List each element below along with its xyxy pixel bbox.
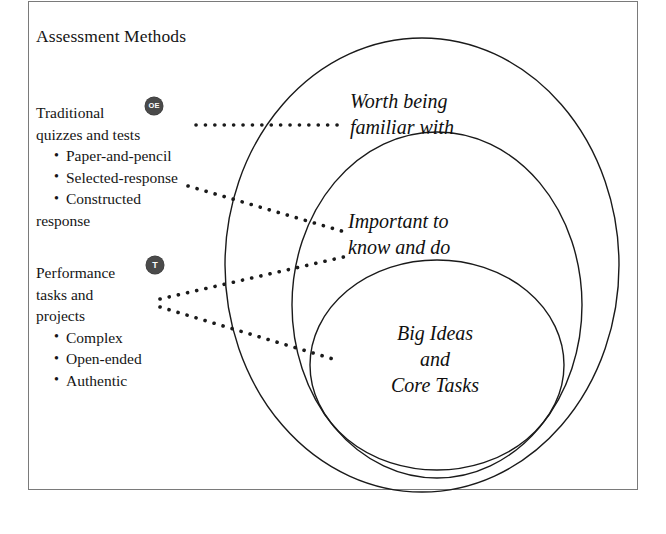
list-item: Selected-response xyxy=(54,167,208,189)
circle-label-line: Worth being xyxy=(350,88,454,114)
list-item: Constructed xyxy=(54,188,208,210)
list-item: Complex xyxy=(54,327,208,349)
connector-oe-to-middle xyxy=(188,186,345,232)
circle-label-line: and xyxy=(365,346,505,372)
circle-label-outer: Worth being familiar with xyxy=(350,88,454,140)
list-item: Authentic xyxy=(54,370,208,392)
circle-label-line: familiar with xyxy=(350,114,454,140)
method-heading-line: quizzes and tests xyxy=(36,124,208,146)
method-heading-line: projects xyxy=(36,305,208,327)
method-heading-line: tasks and xyxy=(36,284,208,306)
method-heading: Traditional quizzes and tests xyxy=(36,102,208,145)
page-title: Assessment Methods xyxy=(36,26,186,47)
list-item: Open-ended xyxy=(54,348,208,370)
circle-label-line: Core Tasks xyxy=(365,372,505,398)
method-heading: Performance tasks and projects xyxy=(36,262,208,327)
circle-label-inner: Big Ideas and Core Tasks xyxy=(365,320,505,398)
circle-label-line: Important to xyxy=(348,208,450,234)
method-block-traditional: Traditional quizzes and tests Paper-and-… xyxy=(36,102,208,231)
method-bullet-list: Complex Open-ended Authentic xyxy=(36,327,208,392)
circle-label-line: Big Ideas xyxy=(365,320,505,346)
method-heading-line: Traditional xyxy=(36,102,208,124)
list-item: Paper-and-pencil xyxy=(54,145,208,167)
method-heading-line: Performance xyxy=(36,262,208,284)
assessment-methods-figure: Assessment Methods Traditional quizzes a… xyxy=(0,0,666,534)
circle-label-middle: Important to know and do xyxy=(348,208,450,260)
badge-oe-icon: OE xyxy=(145,97,163,115)
circle-label-line: know and do xyxy=(348,234,450,260)
badge-t-icon: T xyxy=(146,256,164,274)
method-block-performance: Performance tasks and projects Complex O… xyxy=(36,262,208,391)
method-bullet-list: Paper-and-pencil Selected-response Const… xyxy=(36,145,208,210)
circle-middle xyxy=(292,132,582,478)
method-bullet-continuation: response xyxy=(36,210,208,232)
